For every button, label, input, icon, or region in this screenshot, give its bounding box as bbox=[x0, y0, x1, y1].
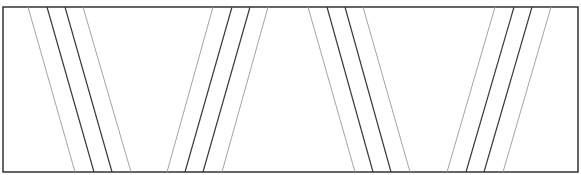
group-1-slant-right bbox=[28, 7, 131, 172]
inner-slanted-line bbox=[484, 7, 532, 172]
inner-slanted-line bbox=[327, 7, 373, 172]
outer-slanted-line bbox=[222, 7, 268, 172]
outer-slanted-line bbox=[447, 7, 495, 172]
diagram-canvas bbox=[0, 0, 581, 175]
outer-slanted-line bbox=[363, 7, 410, 172]
group-4-slant-left bbox=[447, 7, 551, 172]
outer-slanted-line bbox=[28, 7, 75, 172]
group-3-slant-right bbox=[308, 7, 410, 172]
inner-slanted-line bbox=[203, 7, 250, 172]
slanted-line-groups bbox=[28, 7, 551, 172]
outer-slanted-line bbox=[503, 7, 551, 172]
outer-slanted-line bbox=[308, 7, 355, 172]
outer-slanted-line bbox=[167, 7, 213, 172]
inner-slanted-line bbox=[466, 7, 514, 172]
inner-slanted-line bbox=[345, 7, 391, 172]
outer-slanted-line bbox=[83, 7, 131, 172]
inner-slanted-line bbox=[185, 7, 232, 172]
inner-slanted-line bbox=[65, 7, 112, 172]
inner-slanted-line bbox=[47, 7, 94, 172]
group-2-slant-left bbox=[167, 7, 268, 172]
